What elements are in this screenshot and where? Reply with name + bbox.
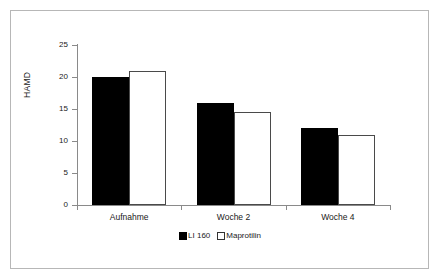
y-tick-label-10: 10 xyxy=(52,136,68,145)
legend-entry-maprotilin: Maprotilin xyxy=(217,231,261,240)
bar-maprotilin-aufnahme xyxy=(129,71,166,205)
category-label-woche-4: Woche 4 xyxy=(288,212,388,222)
x-tick-1 xyxy=(181,205,182,210)
y-tick-label-25: 25 xyxy=(52,40,68,49)
x-tick-3 xyxy=(390,205,391,210)
y-tick-label-0: 0 xyxy=(52,200,68,209)
legend-entry-li-160: LI 160 xyxy=(179,231,210,240)
chart-legend: LI 160Maprotilin xyxy=(0,231,440,240)
y-axis-title: HAMD xyxy=(22,72,32,98)
category-label-aufnahme: Aufnahme xyxy=(79,212,179,222)
bar-li-160-woche-2 xyxy=(197,103,234,205)
y-tick-label-15: 15 xyxy=(52,104,68,113)
legend-label: LI 160 xyxy=(188,231,210,240)
legend-label: Maprotilin xyxy=(226,231,261,240)
bar-maprotilin-woche-2 xyxy=(234,112,271,205)
x-tick-0 xyxy=(77,205,78,210)
y-tick-label-5: 5 xyxy=(52,168,68,177)
plot-area xyxy=(77,45,390,205)
bar-maprotilin-woche-4 xyxy=(338,135,375,205)
x-tick-2 xyxy=(286,205,287,210)
y-tick-label-20: 20 xyxy=(52,72,68,81)
category-label-woche-2: Woche 2 xyxy=(184,212,284,222)
chart-figure: HAMD 0510152025 AufnahmeWoche 2Woche 4 L… xyxy=(0,0,440,280)
bar-li-160-woche-4 xyxy=(301,128,338,205)
open-square-icon xyxy=(217,232,225,240)
filled-square-icon xyxy=(179,232,187,240)
x-axis-line xyxy=(77,205,390,206)
bar-li-160-aufnahme xyxy=(92,77,129,205)
